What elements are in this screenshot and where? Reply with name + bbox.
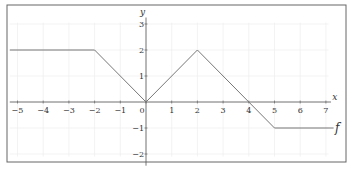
- x-tick-label: −1: [114, 106, 126, 115]
- x-tick-label: 3: [221, 106, 226, 115]
- x-tick-label: −2: [89, 106, 101, 115]
- x-tick-label: 6: [298, 106, 303, 115]
- x-tick-label: −4: [37, 106, 49, 115]
- y-tick-label: 3: [139, 20, 144, 29]
- x-tick-label: 0: [139, 106, 144, 115]
- x-tick-label: −5: [12, 106, 24, 115]
- x-tick-label: 1: [169, 106, 174, 115]
- x-tick-label: 5: [272, 106, 277, 115]
- y-tick-label: 2: [139, 46, 144, 55]
- x-axis-label: x: [332, 92, 337, 102]
- x-tick-label: 4: [246, 106, 251, 115]
- plot-frame: [7, 5, 346, 162]
- function-plot: −5−4−3−2−101234567−2−1123 x y f: [0, 0, 353, 174]
- y-tick-label: −2: [132, 150, 144, 159]
- y-axis-label: y: [139, 7, 146, 17]
- x-tick-label: −3: [63, 106, 75, 115]
- y-tick-label: −1: [132, 124, 144, 133]
- y-tick-label: 1: [139, 72, 144, 81]
- x-tick-label: 7: [323, 106, 328, 115]
- x-tick-label: 2: [195, 106, 200, 115]
